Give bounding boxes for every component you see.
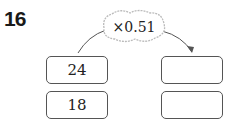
operator-label: ×0.51 <box>104 12 164 42</box>
output-box-2[interactable] <box>161 91 223 119</box>
arrow-head-icon <box>187 46 194 53</box>
input-box-2: 18 <box>46 91 108 119</box>
input-box-1: 24 <box>46 56 108 84</box>
output-box-1[interactable] <box>161 56 223 84</box>
